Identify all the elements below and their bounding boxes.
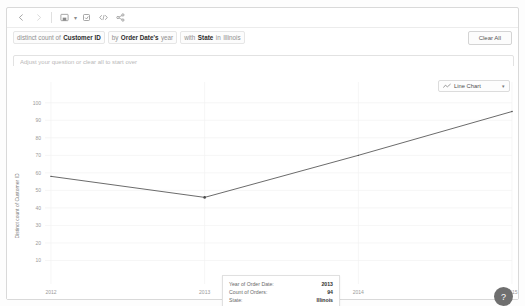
help-badge-button[interactable]: ? (494, 287, 513, 306)
dimension-token[interactable]: by Order Date's year (108, 31, 177, 44)
y-tick-label: 30 (35, 222, 41, 228)
y-axis-ticks: 102030405060708090100 (33, 100, 42, 264)
x-tick-label: 2012 (45, 289, 56, 295)
measure-name-label: Customer ID (63, 34, 100, 41)
y-tick-label: 20 (35, 240, 41, 246)
measure-token[interactable]: distinct count of Customer ID (13, 31, 105, 44)
tooltip-spacer (267, 288, 327, 296)
filter-value-label: Illinois (223, 34, 241, 41)
dimension-grain-label: year (161, 34, 173, 41)
tooltip-key: State: (229, 296, 243, 304)
data-point[interactable] (203, 196, 206, 199)
save-button[interactable] (57, 10, 72, 25)
measure-prefix-label: distinct count of (17, 34, 61, 41)
embed-code-button[interactable] (96, 10, 111, 25)
tooltip-value: 2013 (321, 280, 333, 288)
forward-button[interactable] (31, 10, 46, 25)
tooltip-spacer (243, 296, 317, 304)
data-point[interactable] (50, 176, 51, 177)
tooltip-row: Year of Order Date: 2013 (229, 280, 333, 288)
dimension-name-label: Order Date's (121, 34, 159, 41)
gridlines (45, 82, 512, 284)
filter-token[interactable]: with State in Illinois (180, 31, 245, 44)
tooltip-key: Year of Order Date: (229, 280, 274, 288)
toolbar: ▾ (7, 8, 518, 28)
line-chart-svg[interactable]: 102030405060708090100 2012201320142015 D… (7, 66, 520, 306)
y-tick-label: 70 (35, 152, 41, 158)
save-caret-icon[interactable]: ▾ (74, 15, 77, 21)
y-axis-title: Distinct count of Customer ID (14, 173, 20, 238)
y-tick-label: 90 (35, 117, 41, 123)
data-point[interactable] (511, 111, 512, 112)
filter-field-label: State (198, 34, 213, 41)
tooltip-value: Illinois (317, 296, 333, 304)
toolbar-divider (51, 12, 52, 23)
dimension-by-label: by (112, 34, 119, 41)
filter-with-label: with (184, 34, 195, 41)
y-tick-label: 80 (35, 135, 41, 141)
data-line (51, 112, 512, 198)
filter-in-label: in (216, 34, 221, 41)
x-tick-label: 2014 (353, 289, 364, 295)
revert-button[interactable] (79, 10, 94, 25)
chart-panel: Line Chart ▾ 102030405060708090100 20122… (7, 66, 518, 299)
y-tick-label: 60 (35, 170, 41, 176)
y-tick-label: 40 (35, 205, 41, 211)
tooltip-key: Count of Orders: (229, 288, 267, 296)
question-bar: distinct count of Customer ID by Order D… (7, 28, 518, 47)
tooltip-row: Count of Orders: 94 (229, 288, 333, 296)
chart-tooltip: Year of Order Date: 2013 Count of Orders… (222, 275, 340, 306)
clear-all-button[interactable]: Clear All (468, 31, 512, 45)
data-point[interactable] (358, 155, 359, 156)
back-button[interactable] (14, 10, 29, 25)
y-tick-label: 10 (35, 257, 41, 263)
y-tick-label: 50 (35, 187, 41, 193)
x-tick-label: 2013 (199, 289, 210, 295)
share-button[interactable] (113, 10, 128, 25)
tooltip-row: State: Illinois (229, 296, 333, 304)
tooltip-spacer (274, 280, 322, 288)
question-input-row (13, 50, 514, 64)
tooltip-value: 94 (327, 288, 333, 296)
plot-area: 102030405060708090100 2012201320142015 D… (7, 66, 518, 299)
y-tick-label: 100 (33, 100, 42, 106)
question-window: ▾ (6, 7, 519, 300)
question-phrase: distinct count of Customer ID by Order D… (13, 31, 245, 44)
app-root: ▾ (0, 0, 525, 306)
